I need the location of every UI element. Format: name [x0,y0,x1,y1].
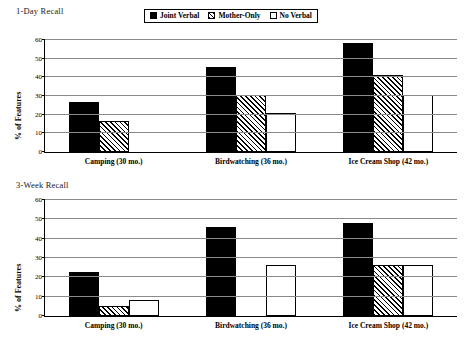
bar-no-verbal-ice-cream-shop-42-mo [403,95,433,152]
x-axis-label-camping-30-mo: Camping (30 mo.) [85,321,143,330]
y-tick-label-60: 60 [35,197,42,204]
y-tick-label-10: 10 [35,293,42,300]
y-tick-label-0: 0 [39,149,43,156]
y-axis-label-panel-1: % of Features [14,92,23,140]
y-tick-label-40: 40 [35,235,42,242]
gridline-40 [45,238,457,239]
legend-item-mother-only: Mother-Only [208,12,260,20]
y-tick-label-20: 20 [35,111,42,118]
y-tick-mark-50 [42,58,45,59]
legend-item-no-verbal: No Verbal [270,12,312,20]
legend-item-joint-verbal: Joint Verbal [150,12,199,20]
gridline-50 [45,58,457,59]
x-axis-label-camping-30-mo: Camping (30 mo.) [85,157,143,166]
plot-area-1-day-recall: Camping (30 mo.)Birdwatching (36 mo.)Ice… [44,40,457,153]
y-tick-label-30: 30 [35,255,42,262]
panel-title-3-week-recall: 3-Week Recall [16,180,69,190]
y-axis-label-panel-2: % of Features [14,264,23,312]
y-tick-mark-20 [42,114,45,115]
y-tick-mark-50 [42,218,45,219]
y-tick-mark-10 [42,132,45,133]
gridline-10 [45,132,457,133]
y-tick-label-30: 30 [35,93,42,100]
y-tick-label-50: 50 [35,216,42,223]
bar-mother-only-ice-cream-shop-42-mo [373,265,403,316]
hatched-square-swatch-icon [208,12,215,19]
y-tick-label-0: 0 [39,313,43,320]
bar-joint-verbal-ice-cream-shop-42-mo [343,43,373,152]
bar-no-verbal-camping-30-mo [129,300,159,316]
x-axis-label-ice-cream-shop-42-mo: Ice Cream Shop (42 mo.) [349,321,429,330]
y-tick-mark-60 [42,39,45,40]
gridline-50 [45,218,457,219]
y-tick-label-60: 60 [35,37,42,44]
gridline-40 [45,76,457,77]
bar-joint-verbal-camping-30-mo [69,272,99,316]
gridline-20 [45,276,457,277]
x-axis-label-birdwatching-36-mo: Birdwatching (36 mo.) [215,321,287,330]
bar-mother-only-camping-30-mo [99,306,129,316]
gridline-30 [45,95,457,96]
panel-title-1-day-recall: 1-Day Recall [16,6,63,16]
open-square-swatch-icon [270,12,277,19]
y-tick-mark-40 [42,238,45,239]
x-axis-label-birdwatching-36-mo: Birdwatching (36 mo.) [215,157,287,166]
y-tick-label-50: 50 [35,55,42,62]
y-tick-mark-40 [42,76,45,77]
y-tick-mark-60 [42,199,45,200]
bar-no-verbal-ice-cream-shop-42-mo [403,265,433,316]
chart-legend: Joint Verbal Mother-Only No Verbal [144,9,318,23]
bar-joint-verbal-camping-30-mo [69,102,99,152]
y-tick-mark-30 [42,95,45,96]
bar-joint-verbal-birdwatching-36-mo [206,227,236,316]
y-tick-mark-10 [42,296,45,297]
gridline-60 [45,39,457,40]
bar-mother-only-camping-30-mo [99,121,129,152]
bar-joint-verbal-birdwatching-36-mo [206,67,236,152]
x-axis-label-ice-cream-shop-42-mo: Ice Cream Shop (42 mo.) [349,157,429,166]
y-tick-label-20: 20 [35,274,42,281]
legend-label-mother-only: Mother-Only [218,12,260,20]
gridline-10 [45,296,457,297]
bar-mother-only-birdwatching-36-mo [236,95,266,152]
solid-square-swatch-icon [150,12,157,19]
plot-area-3-week-recall: Camping (30 mo.)Birdwatching (36 mo.)Ice… [44,200,457,317]
y-tick-mark-30 [42,257,45,258]
y-tick-label-40: 40 [35,74,42,81]
y-tick-mark-20 [42,276,45,277]
legend-label-no-verbal: No Verbal [280,12,312,20]
y-tick-label-10: 10 [35,130,42,137]
gridline-30 [45,257,457,258]
legend-label-joint-verbal: Joint Verbal [160,12,199,20]
gridline-60 [45,199,457,200]
gridline-20 [45,114,457,115]
bar-no-verbal-birdwatching-36-mo [266,265,296,316]
